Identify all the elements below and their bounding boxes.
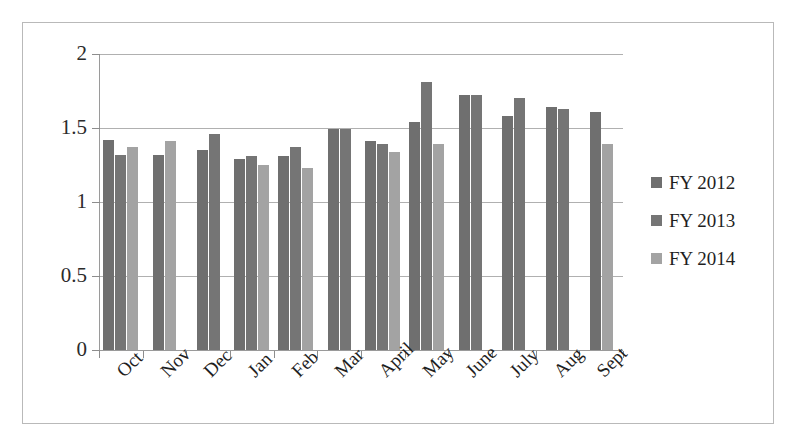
bar (197, 150, 208, 350)
x-tick-labels: OctNovDecJanFebMarAprilMayJuneJulyAugSep… (99, 359, 624, 423)
y-tick-mark (92, 128, 100, 129)
bar (127, 147, 138, 350)
bar (258, 165, 269, 350)
gridline (99, 128, 623, 129)
bar (165, 141, 176, 350)
y-tick-label: 0 (43, 339, 87, 360)
legend-label: FY 2012 (669, 173, 735, 192)
bar (409, 122, 420, 350)
bar-group (234, 54, 269, 350)
bar (115, 155, 126, 350)
x-tick-mark (274, 351, 275, 358)
bar (103, 140, 114, 350)
gridline (99, 54, 623, 55)
y-tick-label: 2 (43, 43, 87, 64)
bar-group (546, 54, 569, 350)
bar (290, 147, 301, 350)
legend-label: FY 2014 (669, 249, 735, 268)
bar (433, 144, 444, 350)
x-tick-mark (143, 351, 144, 358)
bar-group (103, 54, 138, 350)
bar (246, 156, 257, 350)
y-tick-mark (92, 276, 100, 277)
gridline (99, 276, 623, 277)
bar (502, 116, 513, 350)
bar (365, 141, 376, 350)
y-tick-mark (92, 202, 100, 203)
bar (558, 109, 569, 350)
legend-swatch-fy2014 (651, 253, 662, 264)
bar-group (502, 54, 525, 350)
bar (278, 156, 289, 350)
bar-group (153, 54, 176, 350)
bar (590, 112, 601, 350)
chart-figure: 00.511.52 OctNovDecJanFebMarAprilMayJune… (22, 22, 774, 424)
bar (471, 95, 482, 350)
y-tick-label: 0.5 (43, 265, 87, 286)
bar (546, 107, 557, 350)
bar-group (590, 54, 613, 350)
legend-swatch-fy2013 (651, 215, 662, 226)
legend-label: FY 2013 (669, 211, 735, 230)
legend-swatch-fy2012 (651, 177, 662, 188)
bar-group (409, 54, 444, 350)
legend-item: FY 2012 (651, 163, 767, 201)
gridline (99, 202, 623, 203)
bar (514, 98, 525, 350)
bar-group (197, 54, 220, 350)
bar (421, 82, 432, 350)
bar-group (365, 54, 400, 350)
y-tick-label: 1 (43, 191, 87, 212)
bar (459, 95, 470, 350)
bar (209, 134, 220, 350)
bar (602, 144, 613, 350)
y-tick-label: 1.5 (43, 117, 87, 138)
bar (153, 155, 164, 350)
y-tick-mark (92, 54, 100, 55)
x-tick-mark (99, 351, 100, 358)
bar-group (328, 54, 351, 350)
legend-item: FY 2014 (651, 239, 767, 277)
bar-group (459, 54, 482, 350)
plot-area (99, 54, 623, 350)
bar (302, 168, 313, 350)
y-tick-labels: 00.511.52 (35, 23, 87, 423)
bar (328, 129, 339, 350)
bar (389, 152, 400, 350)
bar-group (278, 54, 313, 350)
chart-legend: FY 2012FY 2013FY 2014 (651, 163, 767, 277)
bar (234, 159, 245, 350)
bar (377, 144, 388, 350)
bar (340, 129, 351, 350)
legend-item: FY 2013 (651, 201, 767, 239)
